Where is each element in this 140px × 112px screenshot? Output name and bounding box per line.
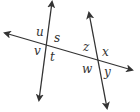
angle-label-z: z	[82, 40, 90, 54]
angle-label-y: y	[103, 65, 111, 79]
angle-label-u: u	[36, 25, 44, 39]
angle-label-w: w	[82, 62, 93, 76]
diagram-svg: usvtzxwy	[0, 0, 140, 112]
diagram-canvas: usvtzxwy	[0, 0, 140, 112]
angle-label-x: x	[102, 45, 109, 59]
angle-label-t: t	[50, 50, 55, 64]
angle-label-s: s	[54, 31, 60, 45]
transversal	[5, 33, 132, 70]
angle-label-v: v	[34, 44, 41, 58]
